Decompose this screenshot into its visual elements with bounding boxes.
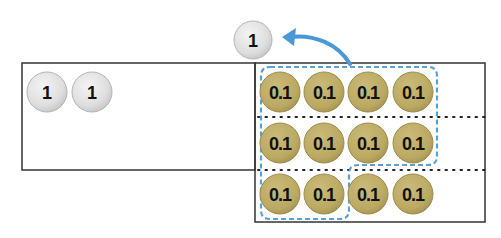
tenths-counter: 0.1 (348, 123, 388, 163)
tenths-counter: 0.1 (348, 72, 388, 112)
counter-label: 0.1 (402, 134, 425, 154)
counter-label: 1 (87, 83, 97, 103)
counter-label: 0.1 (313, 134, 336, 154)
ones-counter: 1 (27, 72, 67, 112)
counter-label: 0.1 (269, 83, 292, 103)
ones-counters: 1 1 (27, 72, 112, 112)
tenths-counter: 0.1 (393, 72, 433, 112)
tenths-counter: 0.1 (260, 72, 300, 112)
place-value-diagram: 1 1 1 0.1 0.1 0.1 0.1 (0, 0, 501, 238)
exchanged-ones-counter: 1 (234, 21, 272, 59)
tenths-counter: 0.1 (260, 174, 300, 214)
tenths-counter: 0.1 (304, 123, 344, 163)
tenths-counters: 0.1 0.1 0.1 0.1 0.1 0.1 0.1 0.1 (260, 72, 433, 214)
tenths-counter: 0.1 (260, 123, 300, 163)
tenths-counter: 0.1 (304, 174, 344, 214)
counter-label: 0.1 (402, 83, 425, 103)
counter-label: 0.1 (357, 134, 380, 154)
counter-label: 0.1 (313, 83, 336, 103)
ones-counter: 1 (72, 72, 112, 112)
counter-label: 0.1 (402, 185, 425, 205)
tenths-counter: 0.1 (348, 174, 388, 214)
counter-label: 1 (42, 83, 52, 103)
counter-label: 1 (248, 31, 258, 51)
counter-label: 0.1 (313, 185, 336, 205)
counter-label: 0.1 (357, 185, 380, 205)
tenths-counter: 0.1 (304, 72, 344, 112)
tenths-counter: 0.1 (393, 174, 433, 214)
tenths-counter: 0.1 (393, 123, 433, 163)
counter-label: 0.1 (269, 134, 292, 154)
counter-label: 0.1 (269, 185, 292, 205)
counter-label: 0.1 (357, 83, 380, 103)
exchange-arrow (282, 28, 350, 64)
